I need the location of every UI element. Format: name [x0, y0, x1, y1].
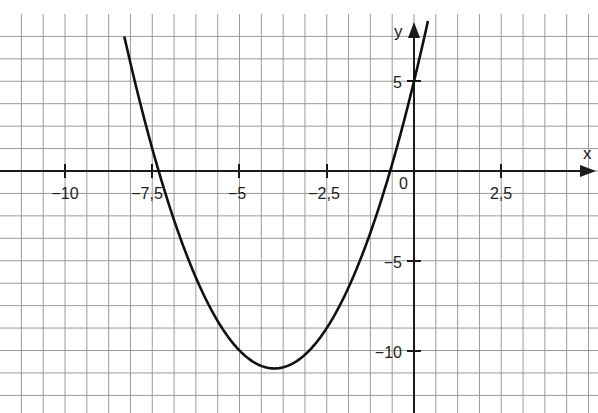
- x-tick-label: −5: [228, 185, 246, 202]
- x-tick-label: −7,5: [131, 185, 163, 202]
- y-axis-label: y: [394, 22, 403, 41]
- x-tick-label: −2,5: [308, 185, 340, 202]
- origin-label: 0: [399, 175, 408, 192]
- grid-lines: [0, 14, 598, 413]
- y-axis-arrow-icon: [408, 22, 420, 38]
- y-tick-label: −5: [384, 254, 402, 271]
- x-tick-label: 2,5: [490, 185, 512, 202]
- parabola-curve: [124, 21, 428, 369]
- y-tick-label: 5: [393, 74, 402, 91]
- parabola-graph: x y 0 −10 −7,5 −5 −2,5 2,5 5 −5 −10: [0, 0, 598, 413]
- x-tick-label: −10: [51, 185, 78, 202]
- y-tick-label: −10: [375, 344, 402, 361]
- x-axis-label: x: [583, 144, 592, 163]
